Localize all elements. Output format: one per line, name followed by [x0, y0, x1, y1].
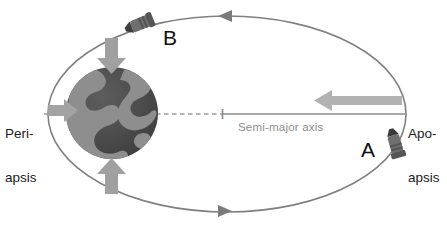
- periapsis-label-line1: Peri-: [5, 127, 37, 142]
- spacecraft-a-label: A: [361, 139, 375, 162]
- orbit-diagram-canvas: [0, 0, 447, 228]
- orbit-diagram: Peri- apsis Apo- apsis Semi-major axis B…: [0, 0, 447, 228]
- apoapsis-label: Apo- apsis: [408, 98, 440, 215]
- apoapsis-label-line2: apsis: [408, 171, 440, 186]
- apoapsis-label-line1: Apo-: [408, 127, 440, 142]
- velocity-arrow-apoapsis-left: [314, 90, 402, 111]
- orbit-direction-arrow-bottom: [218, 205, 232, 217]
- periapsis-label-line2: apsis: [5, 171, 37, 186]
- orbit-direction-arrow-top: [218, 10, 232, 22]
- periapsis-label: Peri- apsis: [5, 98, 37, 215]
- gravity-arrow-bottom-up: [97, 158, 126, 194]
- spacecraft-b-label: B: [163, 27, 177, 50]
- semi-major-axis-label: Semi-major axis: [238, 121, 323, 133]
